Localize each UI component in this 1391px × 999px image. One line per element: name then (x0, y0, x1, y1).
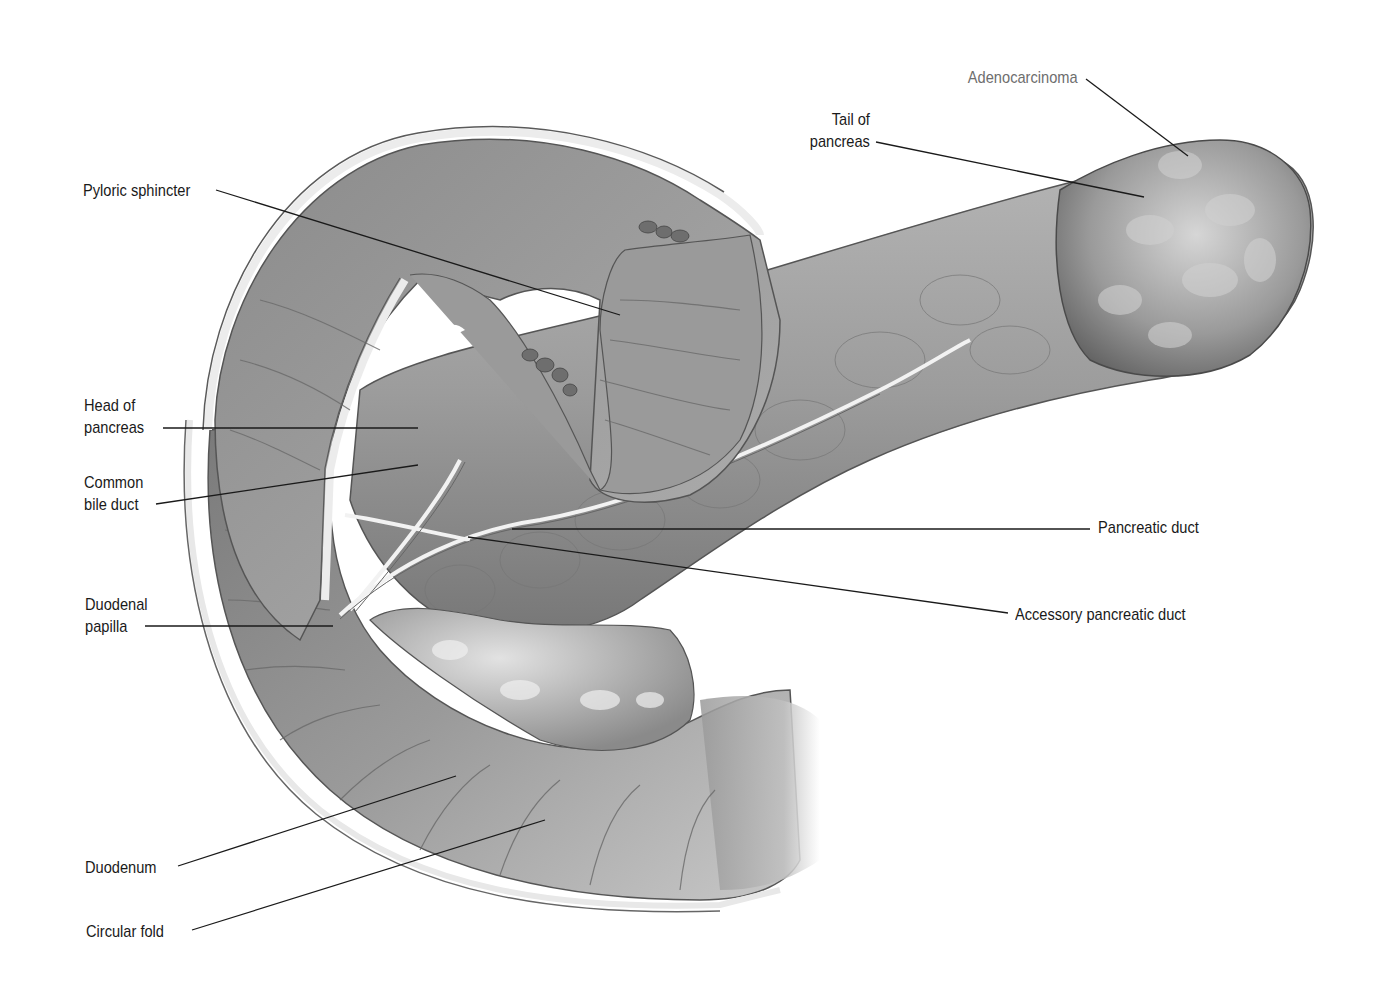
label-pyloric-sphincter: Pyloric sphincter (83, 180, 190, 202)
label-duodenal-papilla: Duodenal papilla (85, 594, 148, 638)
label-head-of-pancreas: Head of pancreas (84, 395, 144, 439)
leader-circular-fold (192, 820, 545, 930)
label-common-bile-duct: Common bile duct (84, 472, 143, 516)
label-tail-of-pancreas: Tail of pancreas (810, 109, 870, 153)
label-accessory-pancreatic-duct: Accessory pancreatic duct (1015, 604, 1186, 626)
pancreas-illustration (0, 0, 1391, 999)
leader-adenocarcinoma (1086, 79, 1188, 156)
label-duodenum: Duodenum (85, 857, 157, 879)
label-adenocarcinoma: Adenocarcinoma (968, 67, 1078, 89)
anatomy-figure: Adenocarcinoma Tail of pancreas Pyloric … (0, 0, 1391, 999)
label-circular-fold: Circular fold (86, 921, 164, 943)
label-pancreatic-duct: Pancreatic duct (1098, 517, 1199, 539)
